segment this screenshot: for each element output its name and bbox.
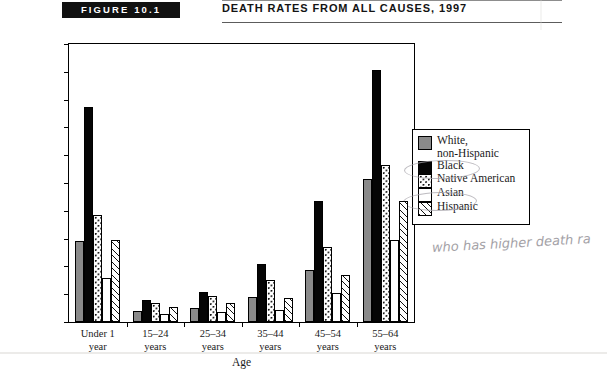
x-axis-tick-mark xyxy=(242,322,243,327)
x-axis-tick-label-line: 55–64 xyxy=(349,328,421,341)
bar xyxy=(284,298,293,322)
bar xyxy=(248,297,257,322)
legend-label: White,non-Hispanic xyxy=(437,134,499,159)
bar xyxy=(341,275,350,322)
bar-group xyxy=(133,44,178,322)
figure-number-badge: FIGURE 10.1 xyxy=(62,2,180,18)
x-axis-tick-mark xyxy=(299,322,300,327)
bar xyxy=(275,310,284,323)
bar xyxy=(323,247,332,322)
x-axis-tick-label: 55–64years xyxy=(349,328,421,353)
x-axis-title: Age xyxy=(69,356,414,368)
legend-label-line: non-Hispanic xyxy=(437,147,499,160)
legend-label-line: White, xyxy=(437,134,499,147)
x-axis-tick-mark xyxy=(357,322,358,327)
bar xyxy=(217,312,226,322)
bar xyxy=(314,201,323,322)
bar xyxy=(208,296,217,322)
y-axis-tick-mark xyxy=(64,322,69,323)
bar-group xyxy=(75,44,120,322)
bars-layer xyxy=(69,44,414,322)
bar xyxy=(160,314,169,322)
bar xyxy=(381,165,390,322)
bar xyxy=(363,179,372,322)
legend-swatch xyxy=(418,136,432,150)
x-axis-tick-mark xyxy=(184,322,185,327)
bar xyxy=(199,292,208,322)
bar xyxy=(332,293,341,322)
scan-artifact xyxy=(540,0,542,30)
bar xyxy=(102,278,111,322)
bar xyxy=(133,311,142,322)
bar xyxy=(399,201,408,322)
bar xyxy=(151,303,160,322)
bar xyxy=(75,241,84,322)
bar xyxy=(257,264,266,322)
bar xyxy=(111,240,120,322)
bar xyxy=(226,303,235,322)
bar xyxy=(305,270,314,322)
bar xyxy=(93,215,102,322)
bar-group xyxy=(190,44,235,322)
handwritten-annotation: who has higher death ra xyxy=(432,231,591,255)
x-axis-tick-mark xyxy=(127,322,128,327)
bar-group xyxy=(305,44,350,322)
bar-group xyxy=(363,44,408,322)
scan-artifact xyxy=(0,352,607,354)
chart-plot-area: Deaths per 100,000 Population 2,0001,800… xyxy=(68,43,415,323)
bar xyxy=(190,308,199,322)
bar xyxy=(266,280,275,322)
header-rule-top xyxy=(222,0,562,1)
bar xyxy=(169,307,178,322)
header-rule-bottom xyxy=(222,22,562,23)
bar xyxy=(390,240,399,322)
bar xyxy=(84,107,93,322)
figure-title: DEATH RATES FROM ALL CAUSES, 1997 xyxy=(222,2,467,14)
bar-group xyxy=(248,44,293,322)
bar xyxy=(372,70,381,322)
figure-header: FIGURE 10.1 DEATH RATES FROM ALL CAUSES,… xyxy=(0,0,607,30)
bar xyxy=(142,300,151,322)
